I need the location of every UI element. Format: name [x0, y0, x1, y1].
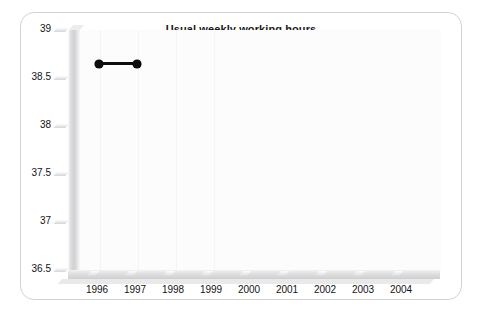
y-tick-mark	[53, 76, 68, 80]
y-tick-label: 38	[11, 119, 51, 130]
y-tick-mark	[53, 172, 68, 176]
y-tick-mark	[53, 124, 68, 128]
y-axis	[68, 30, 79, 270]
x-tick-label: 1999	[191, 284, 231, 295]
x-tick-label: 1996	[77, 284, 117, 295]
y-tick-label: 39	[11, 23, 51, 34]
series-line-segment	[99, 62, 137, 65]
x-tick-label: 2001	[267, 284, 307, 295]
y-tick-mark	[53, 268, 68, 272]
x-tick-label: 1998	[153, 284, 193, 295]
x-tick-label: 2002	[305, 284, 345, 295]
y-tick-label: 37	[11, 215, 51, 226]
y-tick-mark	[53, 28, 68, 32]
gridline-vertical	[176, 30, 177, 270]
y-tick-label: 36.5	[11, 263, 51, 274]
y-tick-mark	[53, 220, 68, 224]
chart-plot-area: 36.53737.53838.539 199619971998199920002…	[63, 30, 443, 280]
x-tick-label: 2004	[381, 284, 421, 295]
y-tick-label: 37.5	[11, 167, 51, 178]
series-data-point[interactable]	[133, 60, 141, 68]
x-tick-label: 1997	[115, 284, 155, 295]
x-tick-label: 2003	[343, 284, 383, 295]
x-axis	[68, 270, 440, 279]
x-tick-label: 2000	[229, 284, 269, 295]
y-tick-label: 38.5	[11, 71, 51, 82]
gridline-vertical	[214, 30, 215, 270]
